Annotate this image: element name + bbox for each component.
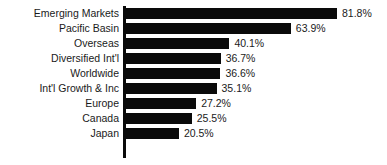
- bar: [126, 8, 337, 19]
- category-label: Canada: [0, 111, 119, 126]
- y-axis-line: [123, 6, 126, 158]
- value-label: 63.9%: [296, 21, 326, 36]
- chart-row: Diversified Int'l36.7%: [0, 51, 387, 66]
- bar: [126, 23, 291, 34]
- bar: [126, 53, 221, 64]
- chart-row: Europe27.2%: [0, 96, 387, 111]
- value-label: 27.2%: [201, 96, 231, 111]
- bar: [126, 113, 192, 124]
- chart-row: Canada25.5%: [0, 111, 387, 126]
- value-label: 36.7%: [226, 51, 256, 66]
- chart-row: Japan20.5%: [0, 126, 387, 141]
- chart-row: Int'l Growth & Inc35.1%: [0, 81, 387, 96]
- bar: [126, 38, 229, 49]
- bar: [126, 83, 217, 94]
- bar: [126, 98, 196, 109]
- category-label: Pacific Basin: [0, 21, 119, 36]
- chart-row: Worldwide36.6%: [0, 66, 387, 81]
- category-label: Europe: [0, 96, 119, 111]
- chart-row: Overseas40.1%: [0, 36, 387, 51]
- category-label: Emerging Markets: [0, 6, 119, 21]
- value-label: 35.1%: [222, 81, 252, 96]
- chart-row: Emerging Markets81.8%: [0, 6, 387, 21]
- value-label: 81.8%: [342, 6, 372, 21]
- chart-row: Pacific Basin63.9%: [0, 21, 387, 36]
- value-label: 25.5%: [197, 111, 227, 126]
- value-label: 20.5%: [184, 126, 214, 141]
- category-label: Worldwide: [0, 66, 119, 81]
- category-label: Japan: [0, 126, 119, 141]
- category-label: Diversified Int'l: [0, 51, 119, 66]
- value-label: 40.1%: [234, 36, 264, 51]
- plot-area: Emerging Markets81.8%Pacific Basin63.9%O…: [0, 0, 387, 165]
- bar-chart: Emerging Markets81.8%Pacific Basin63.9%O…: [0, 0, 387, 165]
- category-label: Overseas: [0, 36, 119, 51]
- bar: [126, 68, 220, 79]
- category-label: Int'l Growth & Inc: [0, 81, 119, 96]
- value-label: 36.6%: [225, 66, 255, 81]
- bar: [126, 128, 179, 139]
